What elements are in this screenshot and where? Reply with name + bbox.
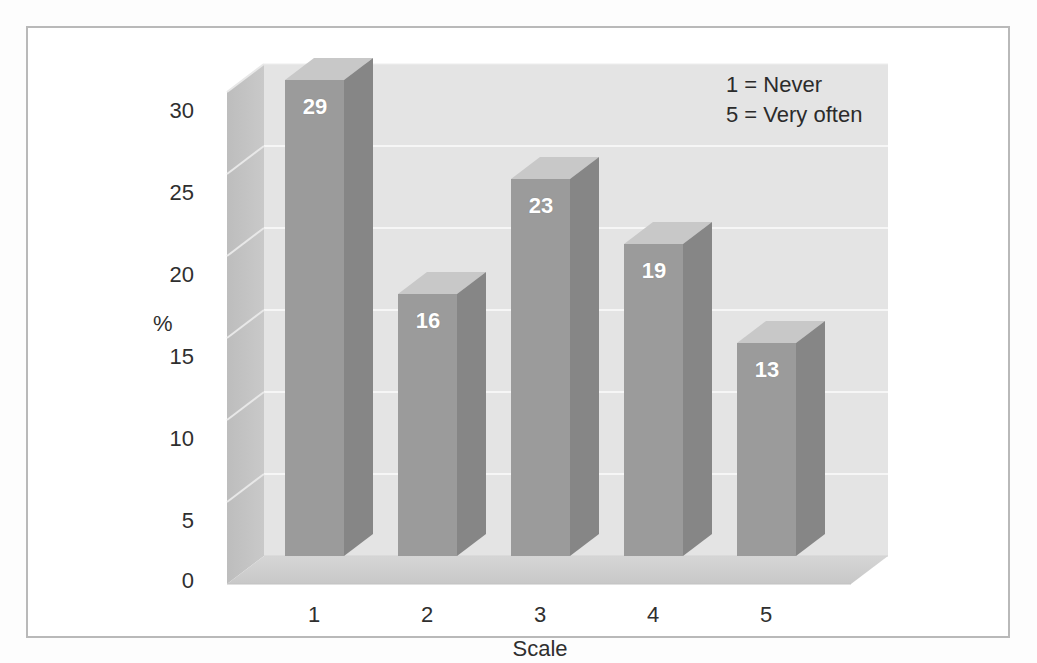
figure-frame: 30 25 20 15 10 5 0 % 1 2 3 4 5 Scale 29 … <box>26 26 1010 638</box>
bar-side-5 <box>796 321 825 556</box>
bar-value-label-5: 13 <box>736 357 798 383</box>
x-tick-1: 1 <box>284 602 344 628</box>
bar-front-4 <box>624 244 683 556</box>
x-tick-3: 3 <box>510 602 570 628</box>
bar-column-1 <box>285 58 373 556</box>
y-tick-15: 15 <box>138 344 194 370</box>
bar-front-3 <box>511 179 570 556</box>
x-tick-5: 5 <box>736 602 796 628</box>
bar-side-1 <box>344 58 373 556</box>
y-tick-30: 30 <box>138 98 194 124</box>
x-axis-title: Scale <box>510 636 570 662</box>
y-axis-title: % <box>153 311 173 337</box>
bar-value-label-2: 16 <box>397 308 459 334</box>
bar-side-3 <box>570 157 599 556</box>
bar-side-2 <box>457 272 486 556</box>
legend-item-never: 1 = Never <box>726 72 822 98</box>
page-canvas: 30 25 20 15 10 5 0 % 1 2 3 4 5 Scale 29 … <box>0 0 1037 663</box>
y-tick-25: 25 <box>138 180 194 206</box>
legend-item-very-often: 5 = Very often <box>726 102 862 128</box>
y-tick-0: 0 <box>138 568 194 594</box>
x-tick-4: 4 <box>623 602 683 628</box>
bar-value-label-4: 19 <box>623 258 685 284</box>
bar-chart: 30 25 20 15 10 5 0 % 1 2 3 4 5 Scale 29 … <box>28 28 1012 640</box>
bar-side-4 <box>683 222 712 556</box>
bar-value-label-3: 23 <box>510 193 572 219</box>
bar-front-1 <box>285 80 344 556</box>
bar-value-label-1: 29 <box>284 94 346 120</box>
floor <box>227 556 888 584</box>
y-tick-5: 5 <box>138 508 194 534</box>
x-tick-2: 2 <box>397 602 457 628</box>
y-tick-20: 20 <box>138 262 194 288</box>
y-tick-10: 10 <box>138 426 194 452</box>
